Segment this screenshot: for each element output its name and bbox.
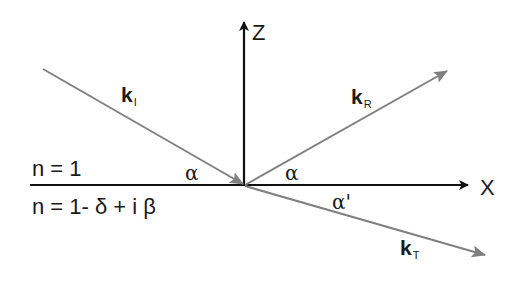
transmitted-wave-vector (245, 186, 485, 255)
incident-vector-subscript: I (134, 96, 137, 108)
diagram-canvas: Z X n = 1 n = 1- δ + i β kI kR kT α α α' (0, 0, 519, 283)
transmitted-vector-subscript: T (413, 249, 420, 261)
lower-medium-label: n = 1- δ + i β (32, 196, 156, 218)
transmitted-angle-label: α' (332, 192, 351, 212)
transmitted-vector-label: kT (400, 237, 419, 261)
reflected-angle-label: α (285, 163, 299, 183)
reflected-vector-symbol: k (351, 85, 363, 108)
incident-angle-label: α (185, 163, 199, 183)
reflected-vector-subscript: R (364, 98, 372, 110)
z-axis-label: Z (252, 22, 265, 44)
reflected-vector-label: kR (351, 86, 372, 110)
incident-vector-symbol: k (121, 83, 133, 106)
lower-medium-index: n = 1- δ + i β (32, 194, 156, 219)
incident-vector-label: kI (121, 84, 137, 108)
reflected-wave-vector (245, 71, 447, 185)
x-axis-label: X (480, 177, 495, 199)
upper-medium-label: n = 1 (32, 158, 82, 180)
transmitted-vector-symbol: k (400, 236, 412, 259)
